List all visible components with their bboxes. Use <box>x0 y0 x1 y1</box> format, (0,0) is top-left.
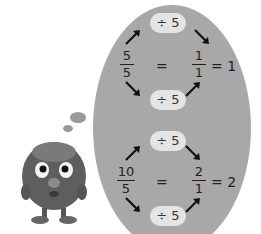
divide-pill-bottom: ÷ 5 <box>150 90 186 110</box>
arrow-down-right-icon <box>123 79 143 99</box>
arrow-up-right-icon <box>123 27 143 47</box>
arrow-down-right-icon <box>123 195 143 215</box>
fraction-1-over-1: 11 <box>189 49 209 80</box>
thought-oval <box>93 5 251 234</box>
arrow-up-right-icon <box>183 79 203 99</box>
arrow-up-right-icon <box>183 195 203 215</box>
divide-pill-top: ÷ 5 <box>150 131 186 151</box>
arrow-down-right-icon <box>192 27 212 47</box>
arrow-up-right-icon <box>123 143 143 163</box>
divide-pill-top: ÷ 5 <box>150 13 186 33</box>
result-2: = 2 <box>211 174 236 190</box>
result-1: = 1 <box>211 58 236 74</box>
arrow-down-right-icon <box>183 143 203 163</box>
fraction-5-over-5: 55 <box>117 49 137 80</box>
furry-monster-icon <box>14 130 94 230</box>
divide-pill-bottom: ÷ 5 <box>150 206 186 226</box>
fraction-10-over-5: 105 <box>114 165 138 196</box>
fraction-2-over-1: 21 <box>189 165 209 196</box>
equals-sign: = <box>156 58 168 74</box>
thought-bubble-large <box>70 112 86 123</box>
equals-sign: = <box>156 174 168 190</box>
